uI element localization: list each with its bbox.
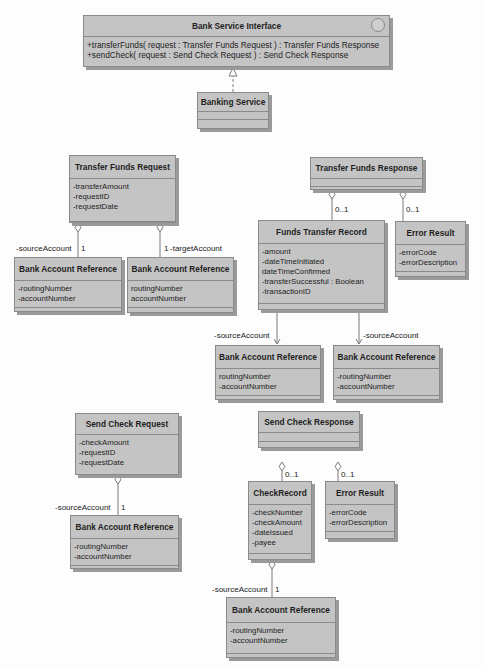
class-name: Error Result <box>396 222 465 245</box>
operations <box>198 120 268 127</box>
attributes: -routingNumber -accountNumber <box>227 623 335 654</box>
class-banking-service[interactable]: Banking Service <box>197 92 269 129</box>
attributes: -amount -dateTimeInitiated dateTimeConfi… <box>259 244 384 304</box>
attributes <box>198 112 268 120</box>
class-name: Send Check Request <box>76 414 178 435</box>
attribute: -dateIssued <box>252 528 308 538</box>
operations <box>216 396 320 403</box>
class-name: Transfer Funds Response <box>311 158 422 179</box>
role-label: -sourceAccount <box>16 244 72 253</box>
attribute: -accountNumber <box>337 382 436 392</box>
attribute: -errorCode <box>399 248 462 258</box>
operations <box>396 272 465 279</box>
operation: +sendCheck( request : Send Check Request… <box>87 50 386 60</box>
operations <box>227 654 335 661</box>
class-bank-account-reference[interactable]: Bank Account Reference routingNumber acc… <box>127 257 234 313</box>
operations <box>311 187 422 194</box>
operations <box>334 396 439 403</box>
attributes: routingNumber accountNumber <box>128 281 233 308</box>
class-name: Error Result <box>326 482 394 505</box>
multiplicity-label: 0..1 <box>406 205 419 214</box>
interface-icon <box>371 18 385 32</box>
class-transfer-funds-request[interactable]: Transfer Funds Request -transferAmount -… <box>69 155 176 223</box>
class-bank-service-interface[interactable]: Bank Service Interface +transferFunds( r… <box>83 15 390 67</box>
multiplicity-label: 1 <box>275 585 279 594</box>
operation: +transferFunds( request : Transfer Funds… <box>87 40 386 50</box>
class-name: Bank Account Reference <box>15 258 121 281</box>
class-name: Bank Account Reference <box>216 346 320 369</box>
attributes: -checkNumber -checkAmount -dateIssued -p… <box>249 505 311 554</box>
attributes: -errorCode -errorDescription <box>326 505 394 532</box>
attribute: routingNumber <box>131 284 230 294</box>
role-label: -sourceAccount <box>212 585 268 594</box>
attribute: -checkAmount <box>252 518 308 528</box>
class-check-record[interactable]: CheckRecord -checkNumber -checkAmount -d… <box>248 481 312 560</box>
multiplicity-label: 0..1 <box>335 205 348 214</box>
attribute: dateTimeConfirmed <box>262 267 381 277</box>
attribute: -checkAmount <box>79 438 175 448</box>
class-bank-account-reference[interactable]: Bank Account Reference -routingNumber -a… <box>226 597 336 658</box>
class-name: Bank Account Reference <box>128 258 233 281</box>
role-label: -sourceAccount <box>214 331 270 340</box>
class-bank-account-reference[interactable]: Bank Account Reference -routingNumber -a… <box>333 345 440 400</box>
operations: +transferFunds( request : Transfer Funds… <box>84 37 389 63</box>
class-send-check-request[interactable]: Send Check Request -checkAmount -request… <box>75 413 179 475</box>
multiplicity-label: 0..1 <box>341 470 354 479</box>
attribute: -requestDate <box>79 458 175 468</box>
attribute: -dateTimeInitiated <box>262 257 381 267</box>
class-send-check-response[interactable]: Send Check Response <box>258 411 360 448</box>
attribute: routingNumber <box>219 372 317 382</box>
attribute: -checkNumber <box>252 508 308 518</box>
realization-triangle-icon <box>229 68 237 76</box>
attributes: -routingNumber -accountNumber <box>15 281 121 308</box>
class-name: Bank Account Reference <box>334 346 439 369</box>
attributes: -errorCode -errorDescription <box>396 245 465 272</box>
attribute: -amount <box>262 247 381 257</box>
class-bank-account-reference[interactable]: Bank Account Reference routingNumber -ac… <box>215 345 321 400</box>
attributes <box>259 433 359 442</box>
operations <box>259 304 384 311</box>
class-name: Send Check Response <box>259 412 359 433</box>
class-name: Bank Account Reference <box>71 516 178 539</box>
multiplicity-label: 1 <box>164 244 168 253</box>
attribute: -requestDate <box>73 202 172 212</box>
attributes: routingNumber -accountNumber <box>216 369 320 396</box>
attribute: -transactionID <box>262 287 381 297</box>
class-bank-account-reference[interactable]: Bank Account Reference -routingNumber -a… <box>70 515 179 569</box>
attribute: -routingNumber <box>230 626 332 636</box>
attribute: -errorCode <box>329 508 391 518</box>
class-error-result[interactable]: Error Result -errorCode -errorDescriptio… <box>325 481 395 539</box>
role-label: -sourceAccount <box>363 331 419 340</box>
attribute: -routingNumber <box>74 542 175 552</box>
attribute: -errorDescription <box>329 518 391 528</box>
attribute: -errorDescription <box>399 258 462 268</box>
attribute: -accountNumber <box>230 636 332 646</box>
attribute: -requestID <box>73 192 172 202</box>
class-funds-transfer-record[interactable]: Funds Transfer Record -amount -dateTimeI… <box>258 220 385 310</box>
multiplicity-label: 1 <box>81 244 85 253</box>
attribute: -requestID <box>79 448 175 458</box>
multiplicity-label: 0..1 <box>285 470 298 479</box>
role-label: -sourceAccount <box>55 503 111 512</box>
role-label: -targetAccount <box>170 244 222 253</box>
attribute: -transferAmount <box>73 182 172 192</box>
attributes: -routingNumber -accountNumber <box>71 539 178 566</box>
attribute: -accountNumber <box>219 382 317 392</box>
attribute: -payee <box>252 538 308 548</box>
multiplicity-label: 1 <box>121 503 125 512</box>
class-name: Transfer Funds Request <box>70 156 175 179</box>
class-name: Bank Service Interface <box>84 16 389 37</box>
class-name: Bank Account Reference <box>227 598 335 623</box>
attribute: -accountNumber <box>18 294 118 304</box>
class-error-result[interactable]: Error Result -errorCode -errorDescriptio… <box>395 221 466 277</box>
attribute: -transferSuccessful : Boolean <box>262 277 381 287</box>
class-name: Banking Service <box>198 93 268 112</box>
attributes: -transferAmount -requestID -requestDate <box>70 179 175 222</box>
class-bank-account-reference[interactable]: Bank Account Reference -routingNumber -a… <box>14 257 122 312</box>
attribute: -routingNumber <box>18 284 118 294</box>
operations <box>71 566 178 573</box>
class-name: CheckRecord <box>249 482 311 505</box>
class-transfer-funds-response[interactable]: Transfer Funds Response <box>310 157 423 190</box>
attribute: accountNumber <box>131 294 230 304</box>
operations <box>70 222 175 229</box>
